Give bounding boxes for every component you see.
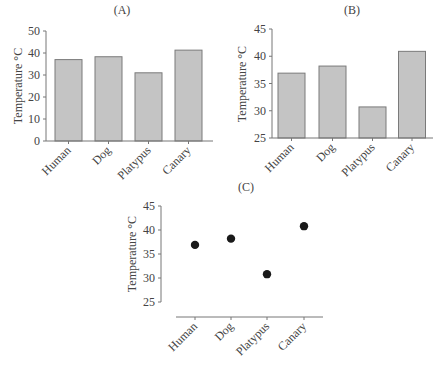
x-tick-label: Platypus	[338, 140, 377, 179]
x-tick-label: Dog	[212, 319, 237, 344]
bar-human	[55, 60, 82, 141]
y-tick-label: 50	[28, 24, 40, 38]
x-tick-label: Canary	[383, 140, 417, 174]
point-dog	[227, 234, 235, 242]
chart-panel-b: (B)Temperature °C2530354045HumanDogPlaty…	[235, 3, 433, 179]
y-tick-label: 30	[28, 68, 40, 82]
y-axis-title: Temperature °C	[11, 48, 25, 124]
y-tick-label: 10	[28, 112, 40, 126]
bar-dog	[319, 66, 346, 138]
bar-canary	[399, 51, 426, 138]
y-tick-label: 40	[28, 46, 40, 60]
point-canary	[300, 222, 308, 230]
y-axis-title: Temperature °C	[125, 216, 139, 292]
panel-title: (C)	[238, 180, 254, 194]
x-tick-label: Canary	[159, 143, 193, 177]
panel-title: (A)	[114, 3, 131, 17]
figure: (A)Temperature °C01020304050HumanDogPlat…	[0, 0, 443, 368]
y-tick-label: 0	[34, 134, 40, 148]
x-tick-label: Platypus	[114, 143, 153, 182]
panel-title: (B)	[344, 3, 360, 17]
x-tick-label: Human	[165, 319, 200, 354]
bar-dog	[95, 57, 122, 141]
y-tick-label: 40	[143, 223, 155, 237]
y-tick-label: 35	[143, 247, 155, 261]
point-platypus	[263, 270, 271, 278]
y-tick-label: 25	[143, 295, 155, 309]
bar-canary	[175, 50, 202, 141]
chart-panel-c: (C)Temperature °C2530354045HumanDogPlaty…	[125, 180, 323, 358]
x-tick-label: Human	[262, 140, 297, 175]
x-tick-label: Dog	[89, 143, 114, 168]
point-human	[191, 241, 199, 249]
y-tick-label: 30	[143, 271, 155, 285]
bar-platypus	[359, 107, 386, 138]
x-tick-label: Dog	[313, 140, 338, 165]
bar-human	[278, 73, 305, 138]
bar-platypus	[135, 73, 162, 141]
y-tick-label: 35	[254, 77, 266, 91]
y-tick-label: 45	[143, 199, 155, 213]
y-tick-label: 40	[254, 49, 266, 63]
y-axis-title: Temperature °C	[235, 46, 249, 122]
y-tick-label: 20	[28, 90, 40, 104]
x-tick-label: Human	[39, 143, 74, 178]
y-tick-label: 45	[254, 22, 266, 36]
chart-panel-a: (A)Temperature °C01020304050HumanDogPlat…	[11, 3, 213, 182]
y-tick-label: 25	[254, 131, 266, 145]
x-tick-label: Canary	[275, 319, 309, 353]
x-tick-label: Platypus	[233, 319, 272, 358]
y-tick-label: 30	[254, 104, 266, 118]
